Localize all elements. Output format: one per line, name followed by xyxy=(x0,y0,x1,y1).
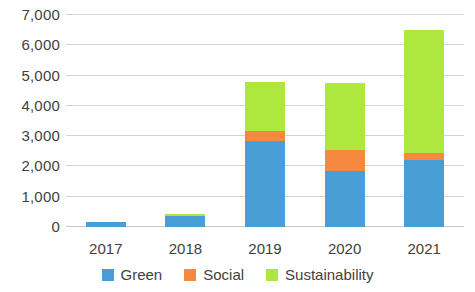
legend-swatch-icon xyxy=(266,269,278,281)
bar-segment-green[interactable] xyxy=(404,160,444,227)
y-axis-tick-label: 6,000 xyxy=(21,36,60,53)
x-axis-tick-label: 2020 xyxy=(322,240,368,257)
bar-segment-social[interactable] xyxy=(325,150,365,171)
bar-segment-green[interactable] xyxy=(86,222,126,227)
legend-item-green[interactable]: Green xyxy=(102,266,163,283)
x-axis-tick-label: 2019 xyxy=(242,240,288,257)
y-axis-labels: 7,000 6,000 5,000 4,000 3,000 2,000 1,00… xyxy=(0,14,60,236)
plot-area xyxy=(66,14,464,236)
x-axis-tick-label: 2017 xyxy=(83,240,129,257)
y-axis-tick-label: 0 xyxy=(51,218,60,235)
bar-group-2021[interactable] xyxy=(401,14,447,227)
stacked-bar-chart: 7,000 6,000 5,000 4,000 3,000 2,000 1,00… xyxy=(0,0,475,292)
chart-legend: Green Social Sustainability xyxy=(0,266,475,283)
y-axis-tick-label: 5,000 xyxy=(21,66,60,83)
y-axis-tick-label: 2,000 xyxy=(21,157,60,174)
bar-stack xyxy=(245,82,285,227)
x-axis-tick-label: 2018 xyxy=(162,240,208,257)
y-axis-tick-label: 1,000 xyxy=(21,187,60,204)
bar-group-2018[interactable] xyxy=(162,14,208,227)
bar-group-2017[interactable] xyxy=(83,14,129,227)
bar-segment-sustainability[interactable] xyxy=(245,82,285,131)
bar-segment-green[interactable] xyxy=(245,141,285,227)
bar-group-2019[interactable] xyxy=(242,14,288,227)
x-axis-labels: 2017 2018 2019 2020 2021 xyxy=(66,240,464,257)
legend-label: Social xyxy=(203,266,244,283)
legend-label: Sustainability xyxy=(285,266,373,283)
bar-segment-sustainability[interactable] xyxy=(404,30,444,153)
legend-item-social[interactable]: Social xyxy=(184,266,244,283)
legend-swatch-icon xyxy=(184,269,196,281)
x-axis-tick-label: 2021 xyxy=(401,240,447,257)
bars-layer xyxy=(66,14,464,227)
bar-segment-social[interactable] xyxy=(404,153,444,160)
legend-label: Green xyxy=(121,266,163,283)
legend-swatch-icon xyxy=(102,269,114,281)
bar-group-2020[interactable] xyxy=(322,14,368,227)
y-axis-tick-label: 7,000 xyxy=(21,6,60,23)
bar-stack xyxy=(404,30,444,227)
legend-item-sustainability[interactable]: Sustainability xyxy=(266,266,373,283)
y-axis-tick-label: 3,000 xyxy=(21,127,60,144)
bar-stack xyxy=(325,83,365,227)
bar-stack xyxy=(86,222,126,227)
bar-stack xyxy=(165,214,205,227)
y-axis-tick-label: 4,000 xyxy=(21,96,60,113)
bar-segment-sustainability[interactable] xyxy=(325,83,365,150)
bar-segment-green[interactable] xyxy=(165,216,205,227)
bar-segment-social[interactable] xyxy=(245,131,285,141)
bar-segment-green[interactable] xyxy=(325,171,365,227)
